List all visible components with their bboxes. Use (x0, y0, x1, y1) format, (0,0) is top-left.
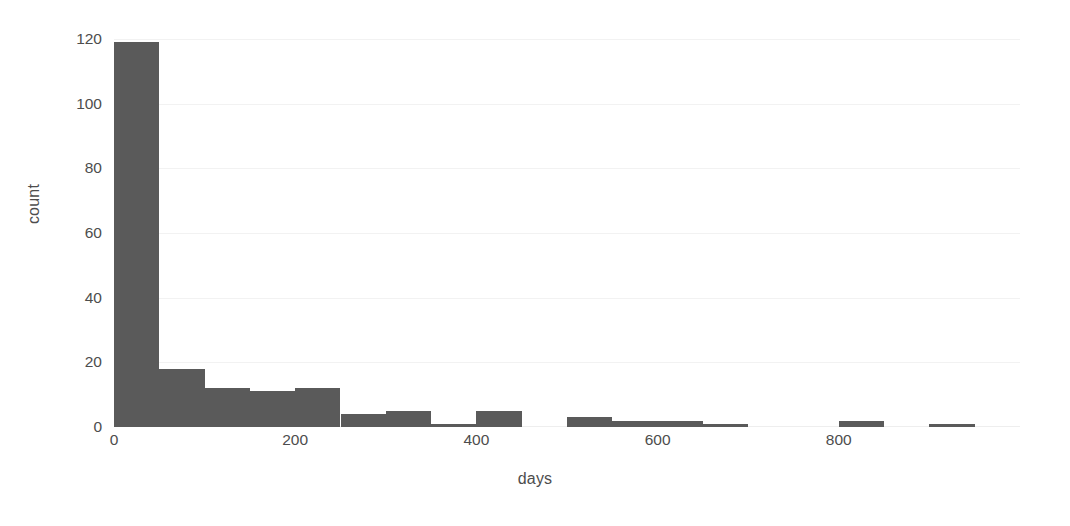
histogram-chart: 020406080100120 0200400600800 days count (0, 0, 1070, 526)
histogram-bar (250, 391, 295, 427)
bars-layer (114, 39, 1020, 427)
x-axis-ticks: 0200400600800 (114, 432, 1020, 456)
y-tick-label: 120 (42, 31, 102, 47)
histogram-bar (839, 421, 884, 427)
y-tick-label: 0 (42, 419, 102, 435)
histogram-bar (929, 424, 974, 427)
histogram-bar (114, 42, 159, 427)
histogram-bar (341, 414, 386, 427)
x-tick-label: 800 (826, 432, 852, 448)
histogram-bar (205, 388, 250, 427)
plot-area (114, 39, 1020, 427)
y-tick-label: 100 (42, 96, 102, 112)
histogram-bar (567, 417, 612, 427)
histogram-bar (386, 411, 431, 427)
histogram-bar (295, 388, 340, 427)
histogram-bar (703, 424, 748, 427)
x-tick-label: 600 (645, 432, 671, 448)
y-axis-label: count (25, 164, 43, 244)
x-tick-label: 400 (463, 432, 489, 448)
histogram-bar (431, 424, 476, 427)
y-tick-label: 40 (42, 290, 102, 306)
histogram-bar (159, 369, 204, 427)
histogram-bar (476, 411, 521, 427)
y-tick-label: 20 (42, 355, 102, 371)
histogram-bar (612, 421, 657, 427)
y-tick-label: 60 (42, 225, 102, 241)
y-axis-ticks: 020406080100120 (34, 39, 102, 427)
x-axis-label: days (0, 470, 1070, 488)
y-tick-label: 80 (42, 161, 102, 177)
histogram-bar (658, 421, 703, 427)
x-tick-label: 200 (282, 432, 308, 448)
x-tick-label: 0 (110, 432, 119, 448)
